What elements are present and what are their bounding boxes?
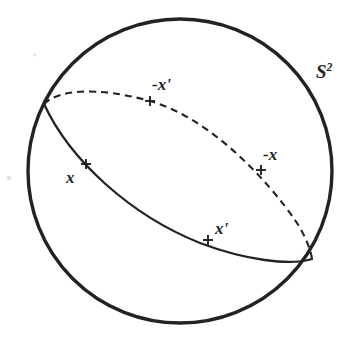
diagram-background: [0, 0, 357, 348]
scan-speck: [7, 176, 11, 180]
sphere-label-s2: S2: [316, 62, 332, 81]
point-label-x-prime: x': [215, 220, 228, 237]
point-label-neg-x-prime: -x': [152, 76, 171, 93]
sphere-label-exponent: 2: [327, 61, 333, 74]
point-label-neg-x: -x: [263, 146, 277, 163]
sphere-label-base: S: [316, 61, 327, 82]
sphere-diagram: [0, 0, 357, 348]
scan-speck: [33, 53, 36, 56]
point-label-x: x: [66, 169, 75, 186]
